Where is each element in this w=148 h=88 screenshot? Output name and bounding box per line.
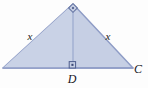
triangle-diagram-svg: x x D C <box>0 0 148 88</box>
right-angle-mark-foot <box>69 62 75 68</box>
label-right-leg: x <box>105 30 111 42</box>
label-left-leg: x <box>27 30 33 42</box>
triangle-shading-left <box>3 4 73 68</box>
label-point-d: D <box>67 72 77 86</box>
label-point-c: C <box>134 62 143 76</box>
geometry-figure: x x D C <box>0 0 148 88</box>
